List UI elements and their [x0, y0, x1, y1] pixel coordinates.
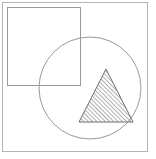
square-shape: [8, 8, 81, 86]
outer-frame: [3, 3, 148, 152]
circle-shape: [39, 37, 141, 139]
triangle-shape: [79, 69, 133, 122]
shapes-svg: [0, 0, 156, 159]
figure-canvas: Geometric shapes figure A thin rectangul…: [0, 0, 156, 159]
